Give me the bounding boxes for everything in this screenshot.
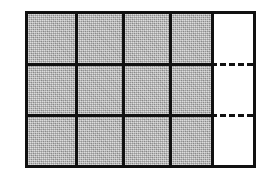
grid-cell-r2c1 [28, 63, 75, 114]
grid-cell-r1c5 [211, 14, 253, 63]
grid-cell-r2c3 [122, 63, 169, 114]
grid-cell-r3c4 [169, 114, 211, 165]
grid-cell-r2c4 [169, 63, 211, 114]
grid-cell-r1c2 [75, 14, 122, 63]
grid-cell-r3c3 [122, 114, 169, 165]
grid-cell-r2c2 [75, 63, 122, 114]
grid-cell-r1c3 [122, 14, 169, 63]
grid-cell-r3c2 [75, 114, 122, 165]
fraction-area-grid [25, 11, 256, 168]
grid-cell-r1c1 [28, 14, 75, 63]
grid-cell-r3c1 [28, 114, 75, 165]
grid-cell-r2c5 [211, 63, 253, 114]
grid-container [28, 14, 253, 165]
grid-cell-r3c5 [211, 114, 253, 165]
grid-cell-r1c4 [169, 14, 211, 63]
